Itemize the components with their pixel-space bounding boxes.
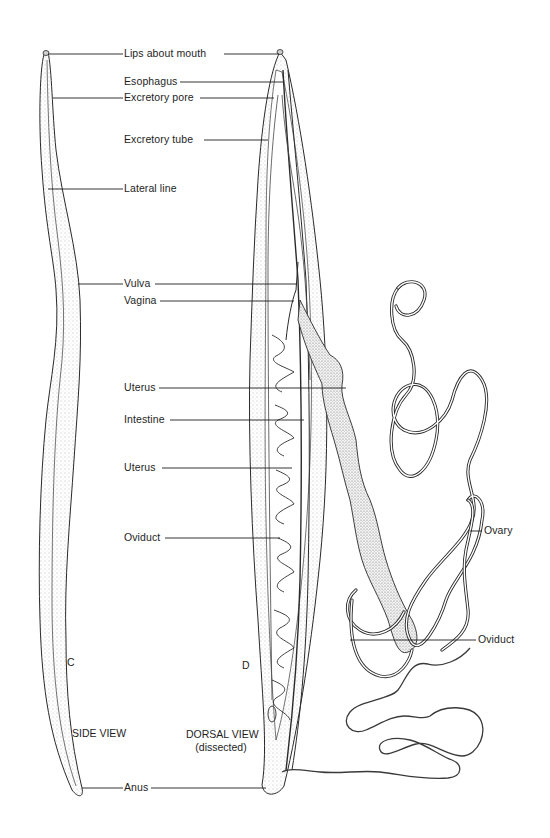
label-anus: Anus [124, 781, 148, 793]
caption-dissected: (dissected) [186, 741, 256, 753]
nematode-anatomy-diagram [0, 0, 550, 838]
label-ovary: Ovary [484, 524, 513, 536]
side-view-worm [39, 51, 82, 796]
label-lateral-line: Lateral line [124, 182, 177, 194]
dorsal-view-worm [249, 50, 326, 795]
label-oviduct-right: Oviduct [478, 633, 514, 645]
caption-dorsal-view: DORSAL VIEW [186, 728, 256, 740]
label-uterus-upper: Uterus [124, 381, 156, 393]
caption-side-view: SIDE VIEW [72, 727, 126, 739]
label-vagina: Vagina [124, 294, 157, 306]
label-lips-about-mouth: Lips about mouth [124, 47, 206, 59]
ovary-coil [347, 282, 486, 677]
oviduct-tail [282, 648, 483, 778]
label-intestine: Intestine [124, 413, 165, 425]
label-excretory-pore: Excretory pore [124, 91, 194, 103]
label-esophagus: Esophagus [124, 75, 177, 87]
label-uterus-lower: Uterus [124, 461, 156, 473]
label-oviduct-left: Oviduct [124, 531, 160, 543]
panel-letter-d: D [242, 659, 250, 671]
label-vulva: Vulva [124, 277, 150, 289]
panel-letter-c: C [67, 656, 75, 668]
label-excretory-tube: Excretory tube [124, 133, 193, 145]
